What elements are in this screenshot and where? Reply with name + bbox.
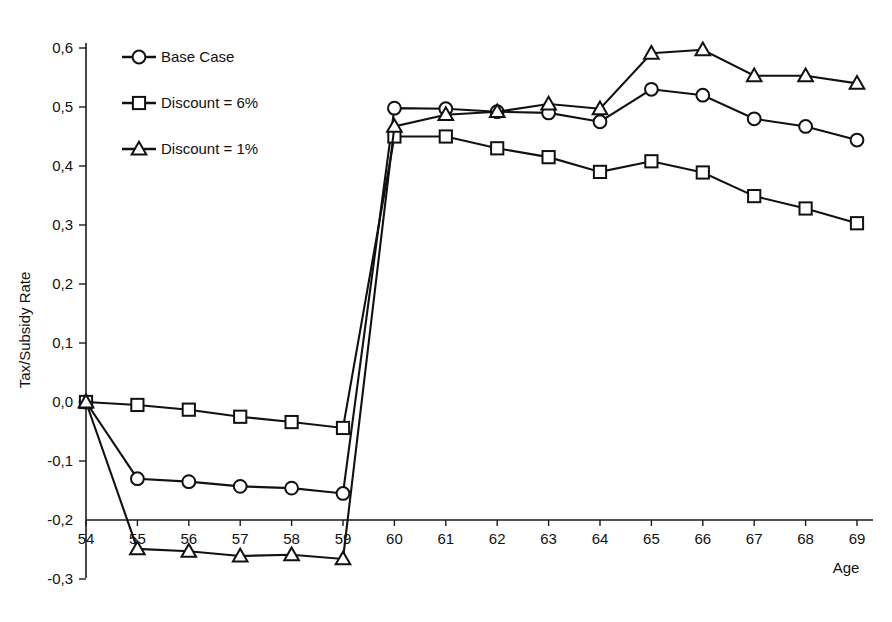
legend-square-marker[interactable] bbox=[133, 97, 145, 109]
y-tick-label: 0,6 bbox=[52, 39, 73, 56]
x-tick-label: 57 bbox=[232, 530, 249, 547]
data-point-marker[interactable] bbox=[234, 411, 246, 423]
x-tick-label: 66 bbox=[694, 530, 711, 547]
series-square bbox=[80, 130, 863, 434]
legend: Base CaseDiscount = 6%Discount = 1% bbox=[122, 48, 258, 157]
data-point-marker[interactable] bbox=[697, 166, 709, 178]
data-point-marker[interactable] bbox=[799, 120, 812, 133]
y-tick-label: -0,2 bbox=[47, 511, 73, 528]
legend-item[interactable]: Discount = 1% bbox=[122, 140, 258, 157]
x-tick-label: 64 bbox=[592, 530, 609, 547]
data-point-marker[interactable] bbox=[337, 422, 349, 434]
x-tick-label: 58 bbox=[283, 530, 300, 547]
x-tick-label: 65 bbox=[643, 530, 660, 547]
data-point-marker[interactable] bbox=[284, 548, 299, 561]
data-point-marker[interactable] bbox=[645, 83, 658, 96]
data-point-marker[interactable] bbox=[851, 134, 864, 147]
x-tick-label: 54 bbox=[78, 530, 95, 547]
x-tick-label: 59 bbox=[335, 530, 352, 547]
legend-label: Discount = 1% bbox=[161, 140, 258, 157]
y-tick-label: 0,5 bbox=[52, 98, 73, 115]
data-point-marker[interactable] bbox=[183, 404, 195, 416]
data-point-marker[interactable] bbox=[594, 115, 607, 128]
y-tick-label: 0,3 bbox=[52, 216, 73, 233]
data-point-marker[interactable] bbox=[440, 130, 452, 142]
x-tick-label: 61 bbox=[437, 530, 454, 547]
data-point-marker[interactable] bbox=[748, 190, 760, 202]
data-point-marker[interactable] bbox=[696, 42, 711, 55]
data-point-marker[interactable] bbox=[541, 97, 556, 110]
y-tick-label: 0,0 bbox=[52, 393, 73, 410]
series-line-square bbox=[86, 137, 857, 428]
data-point-marker[interactable] bbox=[131, 472, 144, 485]
y-tick-label: 0,1 bbox=[52, 334, 73, 351]
x-tick-label: 68 bbox=[797, 530, 814, 547]
data-point-marker[interactable] bbox=[748, 112, 761, 125]
data-point-marker[interactable] bbox=[182, 475, 195, 488]
y-tick-label: -0,1 bbox=[47, 452, 73, 469]
data-point-marker[interactable] bbox=[645, 155, 657, 167]
legend-circle-marker[interactable] bbox=[133, 51, 146, 64]
legend-label: Discount = 6% bbox=[161, 94, 258, 111]
data-point-marker[interactable] bbox=[286, 416, 298, 428]
legend-item[interactable]: Discount = 6% bbox=[122, 94, 258, 111]
y-tick-label: 0,4 bbox=[52, 157, 73, 174]
data-point-marker[interactable] bbox=[285, 482, 298, 495]
x-tick-label: 69 bbox=[849, 530, 866, 547]
data-point-marker[interactable] bbox=[851, 217, 863, 229]
data-point-marker[interactable] bbox=[543, 151, 555, 163]
data-point-marker[interactable] bbox=[696, 89, 709, 102]
legend-label: Base Case bbox=[161, 48, 234, 65]
y-tick-label: 0,2 bbox=[52, 275, 73, 292]
legend-item[interactable]: Base Case bbox=[122, 48, 234, 65]
data-point-marker[interactable] bbox=[131, 399, 143, 411]
series-triangle bbox=[79, 42, 865, 564]
y-tick-label: -0,3 bbox=[47, 570, 73, 587]
line-chart: -0,3-0,2-0,10,00,10,20,30,40,50,65455565… bbox=[0, 0, 892, 622]
data-point-marker[interactable] bbox=[594, 166, 606, 178]
data-point-marker[interactable] bbox=[337, 487, 350, 500]
x-axis-title: Age bbox=[833, 559, 860, 576]
x-tick-label: 63 bbox=[540, 530, 557, 547]
data-point-marker[interactable] bbox=[800, 202, 812, 214]
y-axis-title: Tax/Subsidy Rate bbox=[16, 272, 33, 389]
data-point-marker[interactable] bbox=[491, 142, 503, 154]
x-tick-label: 67 bbox=[746, 530, 763, 547]
x-tick-label: 60 bbox=[386, 530, 403, 547]
data-point-marker[interactable] bbox=[234, 480, 247, 493]
chart-container: -0,3-0,2-0,10,00,10,20,30,40,50,65455565… bbox=[0, 0, 892, 622]
data-point-marker[interactable] bbox=[388, 102, 401, 115]
x-tick-label: 62 bbox=[489, 530, 506, 547]
